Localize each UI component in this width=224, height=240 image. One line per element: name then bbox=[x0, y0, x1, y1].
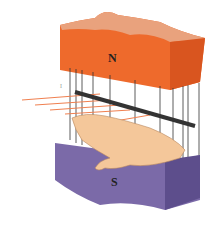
north-pole-label: N bbox=[108, 51, 117, 66]
south-pole-label: S bbox=[111, 175, 118, 190]
current-label: I bbox=[60, 83, 62, 89]
